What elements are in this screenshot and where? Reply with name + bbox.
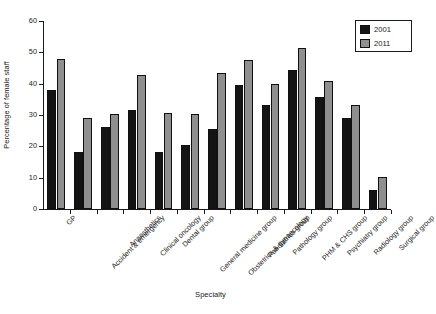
x-tick-5 (204, 210, 205, 214)
bar-2011-anaesthetics (110, 114, 119, 209)
bar-2001-general-medicine-group (181, 145, 190, 209)
y-tick-label-40: 40 (3, 80, 37, 88)
y-tick-label-60: 60 (3, 17, 37, 25)
x-tick-3 (150, 210, 151, 214)
bar-2001-gp (47, 90, 56, 209)
bar-2001-phm-chs-group (288, 70, 297, 209)
bar-2011-accident-emergency (83, 118, 92, 209)
y-tick-label-50: 50 (3, 48, 37, 56)
bar-2011-obstetrics-gynaecology (217, 73, 226, 209)
legend-item-2011: 2011 (360, 38, 390, 49)
bar-2001-anaesthetics (101, 127, 110, 209)
y-tick-label-10: 10 (3, 174, 37, 182)
bar-2011-psychiatry-group (324, 81, 333, 209)
y-tick-label-0: 0 (3, 205, 37, 213)
x-tick-1 (97, 210, 98, 214)
y-axis-line (43, 21, 44, 210)
y-tick-60 (39, 21, 43, 22)
bar-2001-radiology-group (342, 118, 351, 209)
bar-2011-dental-group (164, 113, 173, 209)
x-axis-title: Specialty (0, 290, 421, 299)
x-category-label-general-medicine-group: General medicine group (219, 214, 279, 274)
x-tick-2 (123, 210, 124, 214)
x-tick-8 (284, 210, 285, 214)
y-tick-30 (39, 115, 43, 116)
y-tick-50 (39, 52, 43, 53)
x-tick-7 (257, 210, 258, 214)
bar-2011-surgical-group (378, 177, 387, 209)
x-tick-10 (337, 210, 338, 214)
x-category-label-gp: GP (65, 214, 78, 227)
legend-label-2001: 2001 (374, 25, 391, 34)
y-axis-title-text: Percentage of female staff (2, 40, 11, 170)
x-axis-line (43, 209, 391, 210)
bar-2001-accident-emergency (74, 152, 83, 209)
legend-item-2001: 2001 (360, 24, 391, 35)
chart-legend: 2001 2011 (355, 20, 412, 52)
gray-square-icon (360, 39, 370, 48)
bar-2011-pathology-group (271, 84, 280, 209)
bar-2001-psychiatry-group (315, 97, 324, 209)
bar-2001-paediatrics-group (235, 85, 244, 209)
y-tick-10 (39, 178, 43, 179)
bar-2011-paediatrics-group (244, 60, 253, 209)
x-tick-12 (391, 210, 392, 214)
x-tick-4 (177, 210, 178, 214)
bar-2011-general-medicine-group (191, 114, 200, 209)
x-tick-11 (364, 210, 365, 214)
legend-label-2011: 2011 (374, 39, 390, 48)
bar-2001-obstetrics-gynaecology (208, 129, 217, 209)
x-category-label-anaesthetics: Anaesthetics (128, 214, 163, 249)
bar-2001-clinical-oncology (128, 110, 137, 209)
y-tick-0 (39, 209, 43, 210)
bar-2011-phm-chs-group (298, 48, 307, 209)
x-tick-6 (230, 210, 231, 214)
plot-area: 0102030405060 (43, 21, 391, 210)
y-tick-label-30: 30 (3, 111, 37, 119)
bar-2011-clinical-oncology (137, 75, 146, 209)
bar-2011-gp (57, 59, 66, 209)
y-tick-40 (39, 84, 43, 85)
y-tick-label-20: 20 (3, 142, 37, 150)
y-tick-20 (39, 146, 43, 147)
bar-2001-surgical-group (369, 190, 378, 209)
x-tick-9 (311, 210, 312, 214)
bar-2011-radiology-group (351, 105, 360, 209)
bar-2001-pathology-group (262, 105, 271, 209)
bar-2001-dental-group (155, 152, 164, 209)
black-square-icon (360, 25, 370, 34)
